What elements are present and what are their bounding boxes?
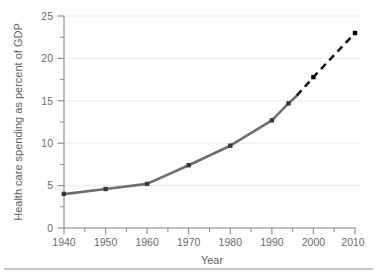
y-tick-label-20: 20 [41,52,53,64]
data-point-1950 [103,187,107,191]
data-point-1940 [62,192,66,196]
data-point-2010 [353,31,357,35]
x-tick-label-1960: 1960 [135,236,159,248]
x-tick-label-2010: 2010 [341,236,365,248]
data-point-1970 [187,163,191,167]
y-tick-label-10: 10 [41,137,53,149]
data-point-1980 [228,144,232,148]
x-tick-label-1940: 1940 [52,236,76,248]
y-tick-label-25: 25 [41,10,53,22]
data-point-2000 [311,75,315,79]
y-axis-title: Health care spending as percent of GDP [12,23,24,221]
data-point-1960 [145,182,149,186]
x-tick-label-1950: 1950 [94,236,118,248]
x-tick-label-1990: 1990 [260,236,284,248]
data-point-1994 [286,101,290,105]
chart-figure: 0 5 10 15 20 25 1940 1950 [0,0,377,275]
y-tick-label-15: 15 [41,95,53,107]
health-care-spending-line-chart: 0 5 10 15 20 25 1940 1950 [0,0,377,275]
x-axis-title: Year [201,254,224,266]
x-tick-label-1970: 1970 [177,236,201,248]
y-tick-label-0: 0 [47,222,53,234]
x-tick-label-2000: 2000 [302,236,326,248]
x-tick-label-1980: 1980 [219,236,243,248]
y-tick-label-5: 5 [47,179,53,191]
data-point-1990 [270,118,274,122]
